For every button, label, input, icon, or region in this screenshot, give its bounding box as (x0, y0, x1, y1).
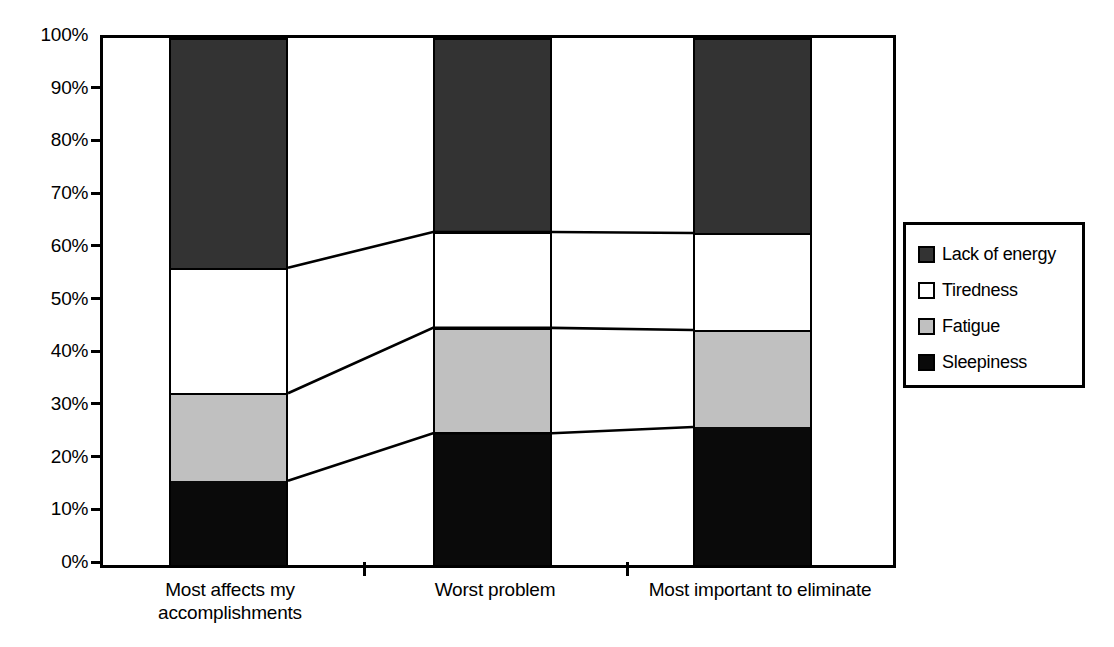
y-tick-label-80: 80% (0, 130, 88, 149)
y-tick-label-60: 60% (0, 236, 88, 255)
y-tick-label-20: 20% (0, 447, 88, 466)
legend-swatch-tiredness (918, 282, 935, 299)
y-tick-label-0: 0% (0, 552, 88, 571)
bar-segment-fatigue (693, 330, 812, 427)
bar-most-affects-accomplishments[interactable] (169, 38, 288, 565)
bar-segment-tiredness (169, 268, 288, 393)
x-axis-label-worst-problem: Worst problem (370, 578, 620, 601)
x-axis-label-most-important-to-eliminate: Most important to eliminate (620, 578, 900, 601)
x-axis-label-line1: Most affects my (110, 578, 350, 601)
legend-item-fatigue[interactable]: Fatigue (918, 308, 1082, 344)
x-axis-label-most-affects-accomplishments: Most affects my accomplishments (110, 578, 350, 624)
y-tick-label-70: 70% (0, 183, 88, 202)
bar-segment-sleepiness (693, 427, 812, 565)
legend-label-tiredness: Tiredness (942, 281, 1018, 299)
x-axis-label-line2: accomplishments (110, 601, 350, 624)
y-tick-label-100: 100% (0, 25, 88, 44)
y-tick-label-90: 90% (0, 78, 88, 97)
legend: Lack of energy Tiredness Fatigue Sleepin… (903, 222, 1085, 388)
bar-segment-lack-of-energy (693, 38, 812, 233)
bar-segment-lack-of-energy (433, 38, 552, 232)
stacked-bar-chart: 100% 90% 80% 70% 60% 50% 40% 30% 20% 10%… (0, 0, 1114, 647)
legend-item-lack-of-energy[interactable]: Lack of energy (918, 236, 1082, 272)
legend-label-sleepiness: Sleepiness (942, 353, 1027, 371)
legend-label-lack-of-energy: Lack of energy (942, 245, 1056, 263)
bar-most-important-to-eliminate[interactable] (693, 38, 812, 565)
x-axis-label-line1: Most important to eliminate (620, 578, 900, 601)
bar-segment-tiredness (433, 232, 552, 328)
y-axis: 100% 90% 80% 70% 60% 50% 40% 30% 20% 10%… (0, 0, 88, 647)
legend-swatch-fatigue (918, 318, 935, 335)
x-tick-mark-2 (626, 562, 629, 576)
plot-area (100, 35, 896, 568)
bar-segment-sleepiness (433, 433, 552, 565)
y-tick-label-10: 10% (0, 499, 88, 518)
bar-segment-sleepiness (169, 481, 288, 565)
y-tick-label-30: 30% (0, 394, 88, 413)
x-tick-mark-1 (363, 562, 366, 576)
y-tick-label-50: 50% (0, 289, 88, 308)
x-axis-label-line1: Worst problem (370, 578, 620, 601)
legend-item-tiredness[interactable]: Tiredness (918, 272, 1082, 308)
legend-swatch-sleepiness (918, 354, 935, 371)
bar-segment-fatigue (433, 328, 552, 433)
legend-item-sleepiness[interactable]: Sleepiness (918, 344, 1082, 380)
legend-label-fatigue: Fatigue (942, 317, 1000, 335)
bar-segment-tiredness (693, 233, 812, 330)
bar-segment-lack-of-energy (169, 38, 288, 268)
legend-swatch-lack-of-energy (918, 246, 935, 263)
bar-worst-problem[interactable] (433, 38, 552, 565)
bar-segment-fatigue (169, 393, 288, 481)
y-tick-label-40: 40% (0, 341, 88, 360)
